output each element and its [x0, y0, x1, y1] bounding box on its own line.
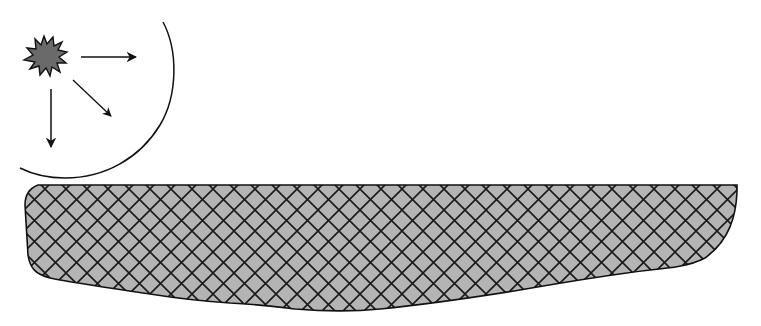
arrow-diagonal-icon [73, 80, 111, 116]
source-splat-icon [24, 36, 67, 76]
diagram-canvas [0, 0, 761, 326]
surface-slab [25, 185, 737, 311]
